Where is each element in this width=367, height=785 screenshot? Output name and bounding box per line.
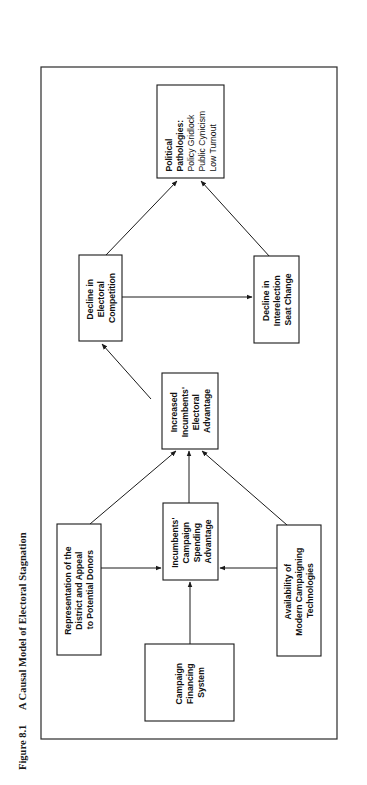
svg-text:Decline in Electoral: Decline in Electoral Competition (85, 273, 117, 323)
node-line: Advantage (203, 519, 213, 563)
node-line: Decline in (85, 279, 95, 320)
node-line: Seat Change (283, 273, 293, 325)
pathology-item: Public Cynicism (197, 111, 207, 172)
node-line: Advantage (202, 389, 212, 433)
svg-text:Decline in Interelecti: Decline in Interelection Seat Change (261, 273, 293, 327)
node-line: District and Appeal (74, 552, 84, 630)
node-campaign-financing: Campaign Financing System (145, 644, 234, 721)
node-line: Competition (107, 273, 117, 323)
node-line: Decline in (261, 280, 271, 321)
node-line: System (196, 667, 206, 698)
node-line: Modern Campaigning (294, 548, 304, 636)
figure-label: Figure 8.1 (17, 725, 28, 770)
node-line: Increased (169, 392, 179, 432)
node-line: to Potential Donors (85, 550, 95, 629)
figure-caption: Figure 8.1 A Causal Model of Electoral S… (17, 532, 28, 770)
edge-seat-change-to-pathologies (201, 181, 270, 257)
node-line: Interelection (272, 275, 282, 326)
edge-electoral-to-competition (102, 344, 151, 399)
node-line: Representation of the (63, 546, 73, 635)
node-line: Financing (185, 663, 195, 704)
pathologies-heading: Political (164, 139, 174, 172)
node-decline-competition: Decline in Electoral Competition (79, 255, 122, 341)
node-line: Spending (192, 523, 202, 562)
node-line: Availability of (283, 564, 293, 620)
svg-text:Increased Incumbents': Increased Incumbents' Electoral Advantag… (169, 385, 212, 438)
node-spending-advantage: Incumbents' Campaign Spending Advantage (163, 503, 218, 580)
edge-competition-to-pathologies (106, 181, 177, 255)
node-representation: Representation of the District and Appea… (57, 524, 101, 655)
pathology-item: Low Turnout (208, 124, 218, 172)
node-line: Electoral (96, 281, 106, 317)
node-line: Electoral (191, 394, 201, 430)
node-electoral-advantage: Increased Incumbents' Electoral Advantag… (162, 373, 218, 449)
pathology-item: Policy Gridlock (186, 114, 196, 172)
node-decline-seat-change: Decline in Interelection Seat Change (254, 256, 299, 343)
node-line: Technologies (305, 563, 315, 618)
svg-text:Representation of the: Representation of the District and Appea… (63, 544, 95, 635)
svg-text:Incumbents' Campaign: Incumbents' Campaign Spending Advantage (170, 515, 213, 568)
pathologies-heading: Pathologies: (175, 120, 185, 172)
figure-title: A Causal Model of Electoral Stagnation (17, 532, 28, 710)
node-line: Incumbents' (180, 387, 190, 437)
node-line: Campaign (181, 522, 191, 564)
node-availability: Availability of Modern Campaigning Techn… (277, 525, 321, 656)
node-line: Campaign (174, 663, 184, 705)
node-line: Incumbents' (170, 518, 180, 568)
causal-model-diagram: Figure 8.1 A Causal Model of Electoral S… (0, 0, 367, 785)
node-pathologies: Political Pathologies: Policy Gridlock P… (157, 85, 224, 178)
svg-text:Figure 8.1 A Causal Mode: Figure 8.1 A Causal Model of Electoral S… (17, 532, 28, 770)
